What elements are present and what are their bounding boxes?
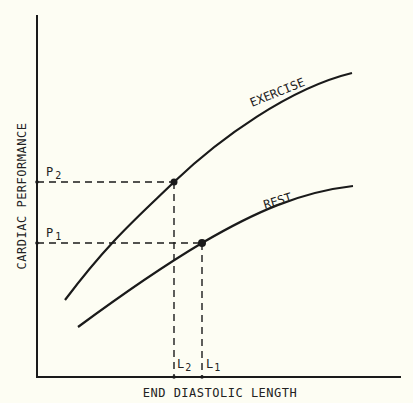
l2-tick (172, 375, 176, 379)
l1-tick (200, 375, 204, 379)
frank-starling-diagram: EXERCISE REST P2 P1 L2 L1 END DIASTOLIC … (0, 0, 413, 403)
rest-label: REST (262, 190, 294, 212)
p2-tick (35, 180, 39, 184)
x-axis-title: END DIASTOLIC LENGTH (143, 386, 298, 400)
y-axis-title: CARDIAC PERFORMANCE (15, 123, 29, 270)
l2-label: L2 (177, 357, 191, 373)
rest-curve (78, 186, 353, 327)
p2-label: P2 (46, 165, 61, 181)
exercise-point (171, 179, 178, 186)
rest-point (198, 239, 206, 247)
p1-tick (35, 241, 39, 245)
exercise-curve (65, 73, 352, 300)
l1-label: L1 (206, 357, 220, 373)
p1-label: P1 (46, 226, 61, 242)
